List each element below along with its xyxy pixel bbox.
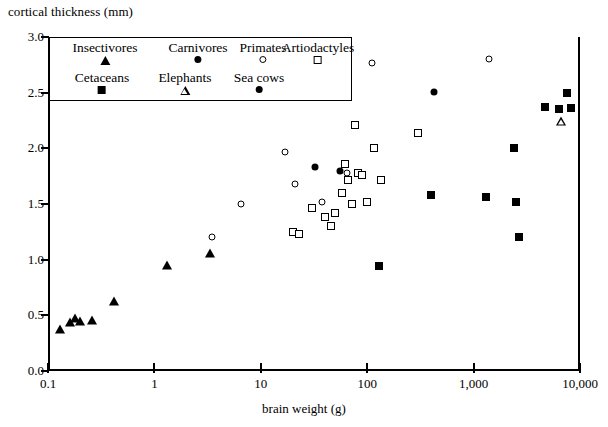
data-point [311, 164, 318, 171]
y-tick-label: 2.5 [0, 85, 44, 101]
data-point [338, 189, 346, 197]
data-point [237, 201, 244, 208]
data-point [375, 262, 383, 270]
data-point [87, 315, 97, 324]
legend-item-label: Artiodactyles [282, 40, 355, 55]
legend-item-label: Sea cows [234, 70, 285, 85]
x-tick-mark [473, 363, 475, 373]
data-point [556, 116, 566, 125]
data-point [344, 176, 352, 184]
x-tick-mark [579, 363, 581, 373]
legend-item-elephants[interactable]: Elephants [158, 70, 211, 98]
open-triangle-marker-icon [180, 86, 190, 95]
data-point [430, 88, 437, 95]
y-tick-mark [41, 147, 49, 149]
filled-circle-marker-icon [194, 56, 201, 63]
x-tick-mark [153, 363, 155, 373]
legend-item-artiodactyles[interactable]: Artiodactyles [282, 40, 355, 68]
legend-item-primates[interactable]: Primates [239, 40, 286, 68]
legend-item-insectivores[interactable]: Insectivores [72, 40, 137, 68]
data-point [341, 160, 349, 168]
legend-item-carnivores[interactable]: Carnivores [168, 40, 227, 68]
chart-canvas: cortical thickness (mm) 0.00.51.01.52.02… [0, 0, 608, 427]
y-tick-mark [41, 203, 49, 205]
y-tick-label: 1.0 [0, 252, 44, 268]
filled-square-marker-icon [98, 86, 106, 94]
x-tick-label: 1 [151, 376, 158, 392]
legend-item-marker [234, 86, 285, 98]
legend-item-marker [239, 56, 286, 68]
data-point [482, 193, 490, 201]
data-point [308, 204, 316, 212]
data-point [368, 59, 375, 66]
data-point [109, 296, 119, 305]
data-point [282, 148, 289, 155]
y-tick-label: 0.5 [0, 307, 44, 323]
data-point [358, 171, 366, 179]
x-tick-label: 10 [254, 376, 267, 392]
data-point [205, 248, 215, 257]
y-tick-mark [41, 314, 49, 316]
x-tick-label: 100 [357, 376, 377, 392]
y-tick-label: 1.5 [0, 196, 44, 212]
y-tick-mark [41, 259, 49, 261]
x-tick-mark [260, 363, 262, 373]
data-point [515, 233, 523, 241]
open-square-marker-icon [314, 56, 322, 64]
data-point [75, 316, 85, 325]
data-point [321, 213, 329, 221]
data-point [292, 180, 299, 187]
y-tick-label: 0.0 [0, 363, 44, 379]
x-tick-mark [366, 363, 368, 373]
legend-item-label: Cetaceans [75, 70, 130, 85]
filled-circle-marker-icon [256, 86, 263, 93]
data-point [377, 176, 385, 184]
data-point [336, 167, 343, 174]
data-point [370, 144, 378, 152]
legend-item-marker [158, 86, 211, 98]
data-point [510, 144, 518, 152]
x-tick-label: 10,000 [562, 376, 598, 392]
data-point [55, 324, 65, 333]
y-axis-label: cortical thickness (mm) [8, 4, 133, 20]
data-point [555, 105, 563, 113]
data-point [427, 191, 435, 199]
data-point [414, 129, 422, 137]
data-point [541, 103, 549, 111]
data-point [327, 222, 335, 230]
legend-item-marker [168, 56, 227, 68]
data-point [486, 56, 493, 63]
legend-item-sea-cows[interactable]: Sea cows [234, 70, 285, 98]
legend-item-marker [72, 56, 137, 68]
data-point [331, 209, 339, 217]
data-point [567, 104, 575, 112]
legend-item-cetaceans[interactable]: Cetaceans [75, 70, 130, 98]
data-point [295, 230, 303, 238]
legend-item-label: Elephants [158, 70, 211, 85]
y-tick-label: 3.0 [0, 29, 44, 45]
data-point [512, 198, 520, 206]
data-point [563, 89, 571, 97]
filled-triangle-marker-icon [100, 56, 110, 65]
data-point [319, 198, 326, 205]
legend-item-label: Carnivores [168, 40, 227, 55]
legend-item-label: Primates [239, 40, 286, 55]
open-circle-marker-icon [260, 56, 267, 63]
x-tick-label: 0.1 [40, 376, 56, 392]
legend-item-marker [75, 86, 130, 98]
y-tick-label: 2.0 [0, 140, 44, 156]
data-point [209, 234, 216, 241]
legend-item-label: Insectivores [72, 40, 137, 55]
x-tick-mark [47, 363, 49, 373]
data-point [363, 198, 371, 206]
x-tick-label: 1,000 [459, 376, 488, 392]
data-point [162, 261, 172, 270]
legend: InsectivoresCarnivoresPrimatesArtiodacty… [48, 37, 352, 101]
x-axis-label: brain weight (g) [0, 401, 608, 417]
data-point [351, 121, 359, 129]
data-point [348, 200, 356, 208]
legend-item-marker [282, 56, 355, 68]
